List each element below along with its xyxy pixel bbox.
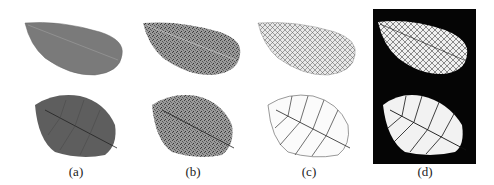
caption-c: (c) — [289, 164, 329, 180]
panel-c-top-leaf — [258, 22, 355, 75]
caption-d: (d) — [405, 164, 445, 180]
panel-a-top-leaf — [25, 22, 122, 75]
caption-b: (b) — [173, 164, 213, 180]
leaf-figure — [0, 0, 494, 185]
caption-a: (a) — [56, 164, 96, 180]
panel-d-top-leaf — [378, 21, 467, 74]
panel-b-bottom-leaf — [152, 95, 234, 157]
panel-a-bottom-leaf — [35, 95, 117, 157]
panel-d-bottom-leaf — [383, 95, 466, 155]
panel-b-top-leaf — [143, 22, 240, 75]
panel-c-bottom-leaf — [268, 95, 350, 157]
